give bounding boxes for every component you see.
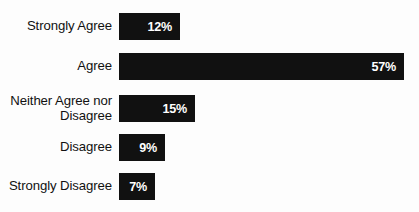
horizontal-bar-chart: Strongly Agree 12% Agree 57% Neither Agr… — [0, 0, 419, 212]
value-bar[interactable]: 12% — [119, 13, 180, 40]
bar-track: 57% — [119, 53, 419, 80]
chart-row: Strongly Agree 12% — [0, 13, 419, 40]
category-label: Disagree — [0, 140, 119, 155]
chart-row: Strongly Disagree 7% — [0, 173, 419, 200]
category-label: Strongly Disagree — [0, 179, 119, 194]
chart-row: Agree 57% — [0, 53, 419, 80]
bar-track: 7% — [119, 173, 419, 200]
value-bar[interactable]: 9% — [119, 134, 165, 161]
category-label: Neither Agree nor Disagree — [0, 94, 119, 123]
bar-value-label: 12% — [147, 20, 172, 34]
bar-track: 9% — [119, 134, 419, 161]
bar-value-label: 15% — [162, 102, 187, 116]
value-bar[interactable]: 57% — [119, 53, 404, 80]
category-label: Strongly Agree — [0, 19, 119, 34]
value-bar[interactable]: 15% — [119, 95, 195, 122]
bar-value-label: 9% — [139, 141, 157, 155]
value-bar[interactable]: 7% — [119, 173, 155, 200]
bar-track: 15% — [119, 95, 419, 122]
bar-value-label: 7% — [129, 180, 147, 194]
bar-track: 12% — [119, 13, 419, 40]
bar-value-label: 57% — [371, 60, 396, 74]
category-label: Agree — [0, 59, 119, 74]
chart-row: Disagree 9% — [0, 134, 419, 161]
chart-row: Neither Agree nor Disagree 15% — [0, 94, 419, 123]
